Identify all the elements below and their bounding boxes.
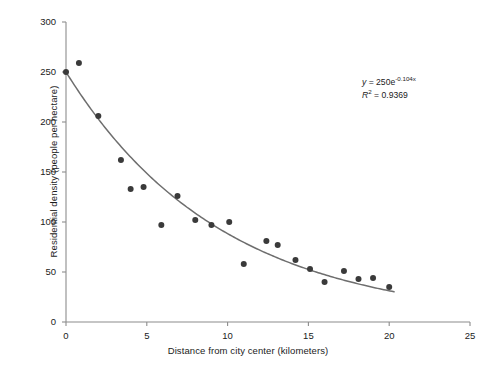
data-point bbox=[341, 268, 347, 274]
chart-container: Distance from city center (kilometers) R… bbox=[0, 0, 496, 371]
data-point bbox=[76, 60, 82, 66]
y-axis-tick-label: 100 bbox=[26, 216, 56, 227]
x-axis-tick-label: 15 bbox=[293, 330, 323, 341]
data-point bbox=[307, 266, 313, 272]
r-squared-line: R2 = 0.9369 bbox=[362, 89, 416, 102]
x-axis-title: Distance from city center (kilometers) bbox=[0, 345, 496, 356]
y-axis-tick-label: 50 bbox=[26, 266, 56, 277]
y-axis-tick-label: 200 bbox=[26, 116, 56, 127]
x-axis-tick-label: 10 bbox=[213, 330, 243, 341]
equation-body: = 250e bbox=[366, 77, 395, 87]
x-axis-tick-label: 5 bbox=[132, 330, 162, 341]
r-squared-value: = 0.9369 bbox=[372, 90, 408, 100]
data-point bbox=[370, 275, 376, 281]
y-axis-tick-label: 150 bbox=[26, 166, 56, 177]
exponential-fit-curve bbox=[66, 72, 394, 292]
data-point bbox=[275, 242, 281, 248]
data-point bbox=[292, 257, 298, 263]
data-point bbox=[192, 217, 198, 223]
data-point bbox=[263, 238, 269, 244]
data-point bbox=[175, 193, 181, 199]
data-point bbox=[118, 157, 124, 163]
x-axis-tick-label: 20 bbox=[374, 330, 404, 341]
fit-annotation: y = 250e-0.104x R2 = 0.9369 bbox=[362, 76, 416, 102]
data-point bbox=[128, 186, 134, 192]
data-point bbox=[63, 69, 69, 75]
equation-exponent: -0.104x bbox=[395, 75, 416, 82]
data-point bbox=[241, 261, 247, 267]
x-axis-ticks bbox=[66, 322, 470, 326]
y-axis-ticks bbox=[62, 22, 66, 322]
data-point bbox=[158, 222, 164, 228]
x-axis-tick-label: 0 bbox=[51, 330, 81, 341]
data-point bbox=[95, 113, 101, 119]
axis-lines bbox=[66, 22, 470, 322]
data-point bbox=[226, 219, 232, 225]
equation-line: y = 250e-0.104x bbox=[362, 76, 416, 89]
data-point bbox=[356, 276, 362, 282]
data-point bbox=[386, 284, 392, 290]
y-axis-tick-label: 250 bbox=[26, 66, 56, 77]
y-axis-tick-label: 0 bbox=[26, 316, 56, 327]
data-point bbox=[322, 279, 328, 285]
data-point bbox=[208, 222, 214, 228]
x-axis-tick-label: 25 bbox=[455, 330, 485, 341]
scatter-points bbox=[63, 60, 392, 290]
data-point bbox=[141, 184, 147, 190]
plot-area bbox=[0, 0, 496, 371]
y-axis-tick-label: 300 bbox=[26, 16, 56, 27]
